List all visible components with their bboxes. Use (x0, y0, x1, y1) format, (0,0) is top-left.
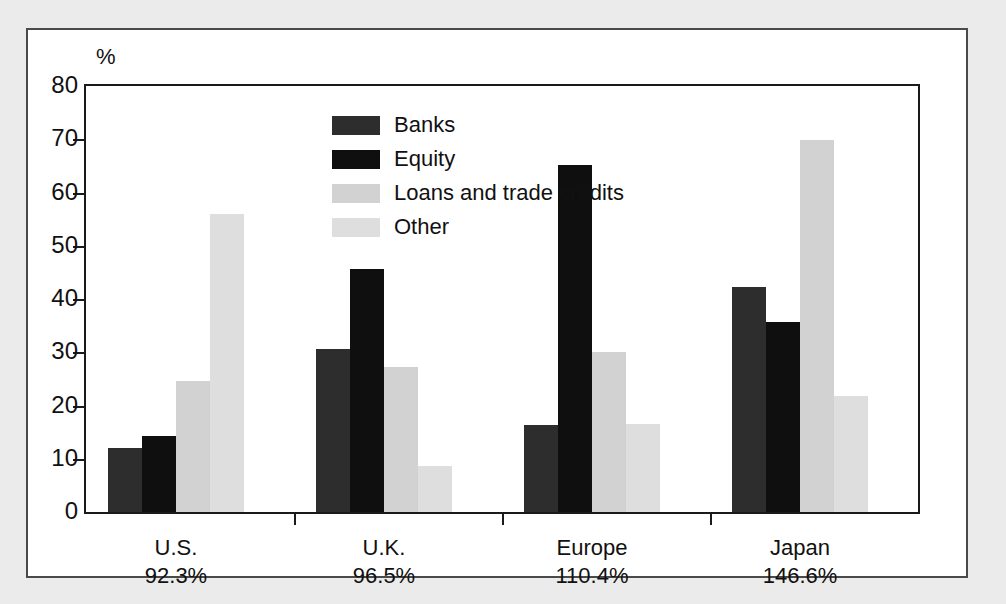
bar (524, 425, 558, 512)
x-axis-category-value: 110.4% (556, 562, 629, 590)
x-axis-category-name: Japan (770, 535, 830, 560)
x-axis-group-label: Japan146.6% (763, 534, 838, 590)
bar (176, 381, 210, 512)
figure-frame: % 01020304050607080 U.S.92.3%U.K.96.5%Eu… (26, 28, 968, 578)
x-axis-tick-mark (502, 512, 504, 525)
legend-item: Loans and trade credits (332, 176, 624, 210)
bar (592, 352, 626, 512)
x-axis-category-value: 92.3% (145, 562, 207, 590)
y-axis-tick-label: 80 (51, 71, 78, 99)
bar-group (732, 86, 868, 512)
legend-item-label: Equity (394, 146, 455, 172)
bar (626, 424, 660, 512)
y-axis-tick-label: 30 (51, 337, 78, 365)
y-axis-tick-label: 40 (51, 284, 78, 312)
legend-item-label: Banks (394, 112, 455, 138)
x-axis-tick-mark (294, 512, 296, 525)
x-axis-group-label: U.K.96.5% (353, 534, 415, 590)
chart-legend: BanksEquityLoans and trade creditsOther (332, 108, 624, 244)
y-axis-tick-label: 70 (51, 124, 78, 152)
legend-item: Banks (332, 108, 624, 142)
legend-item-label: Other (394, 214, 449, 240)
legend-item: Equity (332, 142, 624, 176)
y-axis-tick-label: 60 (51, 178, 78, 206)
legend-swatch-icon (332, 116, 380, 135)
x-axis-category-value: 146.6% (763, 562, 838, 590)
bar (316, 349, 350, 512)
legend-item-label: Loans and trade credits (394, 180, 624, 206)
bar (108, 448, 142, 512)
x-axis-category-name: U.S. (155, 535, 198, 560)
y-axis-tick-label: 0 (65, 497, 78, 525)
legend-swatch-icon (332, 150, 380, 169)
bar (350, 269, 384, 512)
y-axis-tick-label: 10 (51, 444, 78, 472)
legend-swatch-icon (332, 218, 380, 237)
x-axis-category-name: U.K. (363, 535, 406, 560)
bar (384, 367, 418, 512)
legend-swatch-icon (332, 184, 380, 203)
bar-group (108, 86, 244, 512)
x-axis-group-label: U.S.92.3% (145, 534, 207, 590)
bar (418, 466, 452, 512)
y-axis-unit-label: % (96, 44, 116, 70)
x-axis-tick-mark (710, 512, 712, 525)
x-axis-group-label: Europe110.4% (556, 534, 629, 590)
y-axis-tick-label: 50 (51, 231, 78, 259)
bar (834, 396, 868, 512)
bar (142, 436, 176, 512)
bar (732, 287, 766, 512)
x-axis-category-name: Europe (557, 535, 628, 560)
bar (800, 140, 834, 512)
x-axis-category-value: 96.5% (353, 562, 415, 590)
bar (210, 214, 244, 512)
bar (766, 322, 800, 512)
plot-area: % 01020304050607080 U.S.92.3%U.K.96.5%Eu… (84, 84, 920, 514)
y-axis-tick-label: 20 (51, 391, 78, 419)
legend-item: Other (332, 210, 624, 244)
